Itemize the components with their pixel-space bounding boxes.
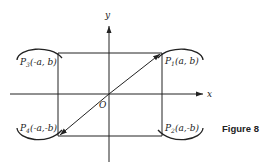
- point-label-p4: P4(-a,-b): [19, 123, 57, 134]
- point-label-p2: P2(a,-b): [164, 123, 199, 134]
- origin-label: O: [99, 100, 107, 110]
- point-label-p1: P1(a, b): [164, 56, 199, 67]
- diagonal-to-p1: [109, 54, 160, 94]
- figure-diagram: y x O P3(-a, b) P1(a, b) P4(-a,-b) P2(a,…: [0, 0, 273, 168]
- x-axis-label: x: [207, 89, 212, 99]
- svg-text:P1(a, b): P1(a, b): [164, 56, 199, 67]
- figure-caption: Figure 8: [222, 123, 259, 134]
- svg-text:P4(-a,-b): P4(-a,-b): [19, 123, 57, 134]
- y-axis-label: y: [104, 10, 111, 20]
- point-label-p3: P3(-a, b): [19, 57, 57, 68]
- svg-text:P3(-a, b): P3(-a, b): [19, 57, 57, 68]
- svg-text:P2(a,-b): P2(a,-b): [164, 123, 199, 134]
